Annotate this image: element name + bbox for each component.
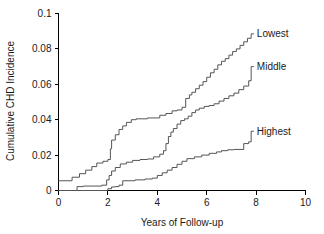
x-tick-label: 4 (155, 197, 161, 208)
y-tick-label: 0.02 (32, 150, 52, 161)
series-curve-lowest (59, 35, 252, 181)
series-label-middle: Middle (257, 61, 287, 72)
y-tick-label: 0.08 (32, 43, 52, 54)
y-axis-ticks: 00.020.040.060.080.1 (32, 8, 58, 196)
x-tick-label: 0 (56, 197, 62, 208)
y-tick-label: 0.1 (38, 8, 52, 19)
series-label-lowest: Lowest (257, 28, 289, 39)
chd-incidence-step-chart: 00.020.040.060.080.1 0246810 LowestMiddl… (0, 0, 324, 234)
x-tick-label: 10 (300, 197, 312, 208)
x-axis-ticks: 0246810 (56, 191, 312, 208)
series-curve-middle (59, 67, 252, 191)
y-tick-label: 0.06 (32, 79, 52, 90)
x-axis-title: Years of Follow-up (141, 217, 224, 228)
x-tick-label: 8 (253, 197, 259, 208)
series-labels-group: LowestMiddleHighest (257, 28, 291, 136)
y-axis-title: Cumulative CHD Incidence (5, 41, 16, 161)
x-tick-label: 2 (105, 197, 111, 208)
chart-container: 00.020.040.060.080.1 0246810 LowestMiddl… (0, 0, 324, 234)
y-tick-label: 0.04 (32, 114, 52, 125)
x-tick-label: 6 (204, 197, 210, 208)
series-leader-lowest (251, 34, 254, 35)
series-curve-highest (59, 131, 252, 190)
series-label-highest: Highest (257, 126, 291, 137)
data-series-group (59, 34, 254, 191)
y-tick-label: 0 (46, 185, 52, 196)
